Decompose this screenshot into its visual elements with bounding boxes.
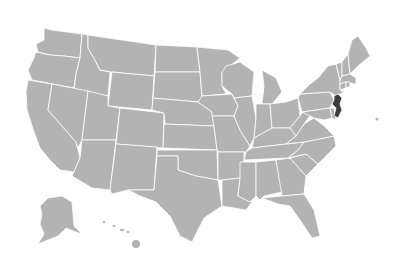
hawaii-island [103, 221, 106, 223]
island-bermuda-marker [376, 118, 379, 121]
state-south-dakota[interactable]: South Dakota [153, 72, 202, 102]
state-mississippi[interactable]: Mississippi [238, 162, 256, 202]
state-kansas[interactable]: Kansas [163, 124, 217, 150]
hawaii-island [127, 231, 130, 233]
state-rhode-island[interactable]: Rhode Island [346, 82, 350, 88]
state-north-dakota[interactable]: North Dakota [155, 45, 200, 72]
hawaii-island [113, 225, 116, 227]
hawaii-island [132, 240, 140, 248]
state-wyoming[interactable]: Wyoming [108, 72, 154, 110]
state-florida[interactable]: Florida [262, 194, 320, 238]
us-map: WashingtonOregonCaliforniaIdahoNevadaMon… [0, 0, 407, 275]
state-maine[interactable]: Maine [348, 36, 370, 74]
state-michigan[interactable]: Michigan [262, 70, 282, 104]
state-colorado[interactable]: Colorado [116, 108, 164, 148]
hawaii-island [120, 229, 124, 231]
state-new-mexico[interactable]: New Mexico [110, 144, 157, 194]
state-alaska[interactable] [38, 196, 82, 244]
states-layer: WashingtonOregonCaliforniaIdahoNevadaMon… [26, 28, 370, 242]
state-wisconsin[interactable]: Wisconsin [222, 62, 254, 98]
state-hawaii[interactable] [103, 221, 141, 248]
